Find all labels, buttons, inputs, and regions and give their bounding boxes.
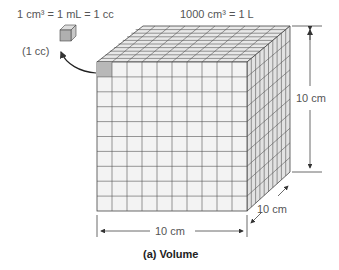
caption: (a) Volume	[143, 248, 198, 260]
big-cube	[97, 26, 290, 211]
unit-cube	[60, 25, 76, 41]
unit-cube-note: (1 cc)	[22, 45, 50, 57]
unit-cube-equation: 1 cm³ = 1 mL = 1 cc	[17, 8, 114, 20]
highlighted-unit-cube	[97, 62, 112, 77]
width-dimension-label: 10 cm	[155, 225, 185, 237]
big-cube-equation: 1000 cm³ = 1 L	[180, 8, 254, 20]
volume-diagram: 1 cm³ = 1 mL = 1 cc (1 cc) 1000 cm³ = 1 …	[0, 0, 339, 270]
depth-dimension-label: 10 cm	[257, 203, 287, 215]
curved-arrow	[61, 52, 96, 73]
height-dimension-label: 10 cm	[296, 92, 326, 104]
